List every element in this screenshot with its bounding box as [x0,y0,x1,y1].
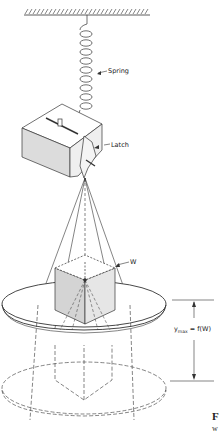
ymax-subscript: max [178,329,188,334]
ymax-dimension [170,300,214,381]
spring-scale-diagram [0,0,221,438]
latch-block [22,104,102,182]
caption-line2: w [212,424,218,433]
spring-label: Spring [108,67,129,75]
caption-prefix: F [212,410,219,422]
spring [79,15,92,128]
ymax-rhs: = f(W) [188,325,211,333]
weight-label: W [130,258,136,266]
ymax-label: ymax = f(W) [174,325,211,334]
latch-label: Latch [111,141,129,149]
ceiling-hatch [24,9,150,15]
weight-cube [55,255,115,324]
